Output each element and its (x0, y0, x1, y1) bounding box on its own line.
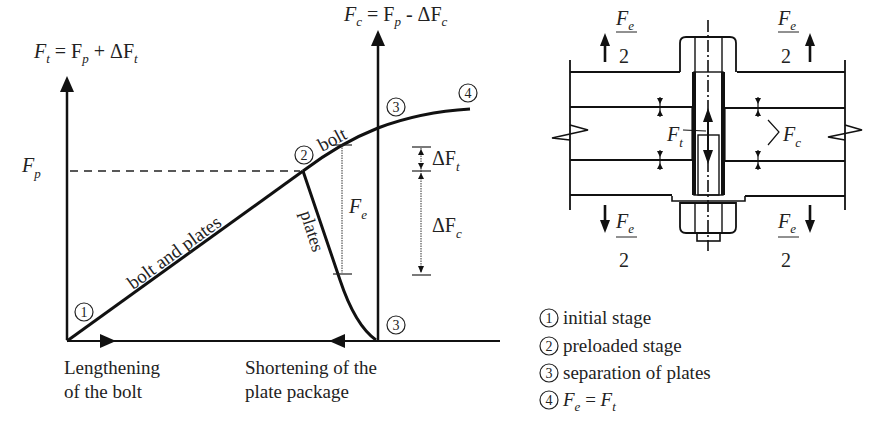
legend-item-separation-of-plates: 3 separation of plates (540, 362, 711, 383)
svg-text:4: 4 (465, 86, 472, 101)
ft-up-arrow-icon (703, 108, 713, 122)
svg-text:4: 4 (546, 393, 553, 408)
svg-text:initial stage: initial stage (563, 307, 651, 328)
arrow-up-icon (600, 33, 610, 46)
svg-text:2: 2 (619, 45, 629, 67)
x-axis-left-arrow-icon (329, 334, 345, 348)
svg-text:Fe = Ft: Fe = Ft (562, 389, 616, 414)
plates-label: plates (296, 208, 328, 254)
svg-text:of the bolt: of the bolt (64, 381, 143, 402)
stage-marker-3-top: 3 (387, 98, 405, 116)
stage-marker-2: 2 (295, 146, 313, 164)
ft-down-arrow-icon (703, 150, 713, 164)
ft-label: Ft (666, 123, 683, 150)
arrow-down-icon (805, 220, 815, 233)
svg-text:2: 2 (781, 249, 791, 271)
fp-label: Fp (21, 154, 41, 181)
svg-text:2: 2 (781, 45, 791, 67)
external-load-bottom-left: Fe 2 (600, 205, 637, 271)
compression-arrows-left (657, 97, 663, 170)
plate-force-axis-title: Fc = Fp - ΔFc (343, 3, 448, 29)
svg-text:2: 2 (301, 148, 308, 163)
svg-text:Fe: Fe (615, 210, 634, 236)
arrow-down-icon (600, 220, 610, 233)
bolted-joint-section: Ft Fc Fe 2 Fe 2 Fe 2 (552, 7, 862, 271)
legend-item-initial-stage: 1 initial stage (540, 307, 651, 328)
svg-text:2: 2 (546, 339, 553, 354)
bolt-label: bolt (314, 123, 351, 156)
svg-text:Fe: Fe (777, 210, 796, 236)
bolt-and-plates-label: bolt and plates (123, 211, 225, 293)
plates-curve (303, 171, 376, 340)
delta-ft-label: ΔFt (432, 147, 460, 174)
fe-label: Fe (348, 195, 367, 222)
external-load-bottom-right: Fe 2 (777, 205, 815, 271)
stage-marker-3-bottom: 3 (387, 316, 405, 334)
svg-text:preloaded stage: preloaded stage (563, 335, 682, 356)
shortening-caption: Shortening of the (245, 357, 377, 378)
delta-fc-label: ΔFc (432, 214, 462, 241)
stage-marker-1: 1 (75, 303, 93, 321)
legend-item-preloaded-stage: 2 preloaded stage (540, 335, 682, 356)
lengthening-caption: Lengthening (64, 357, 161, 378)
stage-marker-4: 4 (459, 84, 477, 102)
x-axis-right-arrow-icon (100, 334, 116, 348)
svg-text:1: 1 (546, 311, 553, 326)
legend-item-fe-equals-ft: 4 Fe = Ft (540, 389, 616, 414)
bolt-force-axis-title: Ft = Fp + ΔFt (33, 40, 138, 66)
fc-label: Fc (782, 123, 801, 150)
svg-text:1: 1 (81, 305, 88, 320)
svg-text:2: 2 (619, 249, 629, 271)
svg-text:Fe: Fe (777, 7, 796, 33)
y-axis-plates-arrow-icon (371, 30, 385, 46)
external-load-top-right: Fe 2 (777, 7, 815, 67)
svg-text:3: 3 (393, 318, 400, 333)
force-elongation-chart: Ft = Fp + ΔFt Fc = Fp - ΔFc Fp bolt and … (21, 3, 500, 402)
svg-text:Fe: Fe (615, 7, 634, 33)
svg-text:plate package: plate package (245, 381, 349, 402)
bolt-force-diagram: Ft = Fp + ΔFt Fc = Fp - ΔFc Fp bolt and … (0, 0, 878, 439)
svg-text:3: 3 (546, 366, 553, 381)
svg-text:separation of plates: separation of plates (563, 362, 711, 383)
external-load-top-left: Fe 2 (600, 7, 637, 67)
fc-brace (768, 120, 779, 145)
stage-legend: 1 initial stage 2 preloaded stage 3 sepa… (540, 307, 711, 414)
svg-text:3: 3 (393, 100, 400, 115)
arrow-up-icon (805, 33, 815, 46)
y-axis-bolt-arrow-icon (60, 76, 74, 92)
